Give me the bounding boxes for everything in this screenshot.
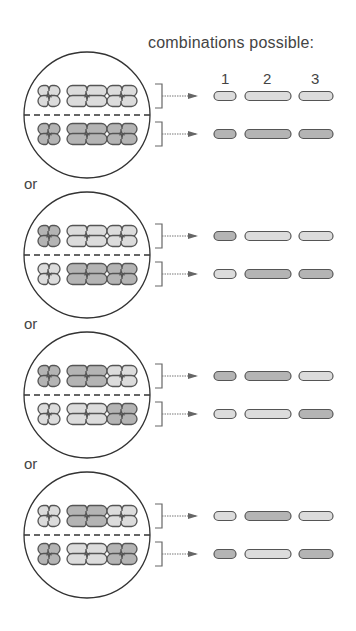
chromosome-1-bottom <box>38 124 60 145</box>
chromosome-1-top <box>38 506 60 527</box>
chromosome-2-bottom <box>67 544 107 565</box>
chromosome-2-bottom <box>67 264 107 285</box>
result-chromosome-3-top <box>299 92 333 101</box>
meiosis-combinations-diagram: 1 2 3 1 2 3 <box>0 0 356 631</box>
bracket <box>155 84 162 108</box>
result-chromosome-1-top <box>214 512 236 521</box>
bracket <box>155 542 162 566</box>
result-chromosome-1-top <box>214 372 236 381</box>
bracket <box>155 402 162 426</box>
result-chromosome-2-top <box>245 92 291 101</box>
result-chromosome-1-bottom <box>214 130 236 139</box>
bracket <box>155 364 162 388</box>
result-chromosome-1-bottom <box>214 550 236 559</box>
chromosome-2-bottom <box>67 124 107 145</box>
chromosome-2-top <box>67 226 107 247</box>
chromosome-1-bottom <box>38 404 60 425</box>
chromosome-3-top <box>107 226 137 247</box>
result-chromosome-1-top <box>214 232 236 241</box>
chromosome-1-top <box>38 226 60 247</box>
chromosome-3-bottom <box>107 264 137 285</box>
chromosome-1-bottom <box>38 264 60 285</box>
result-chromosome-2-bottom <box>245 410 291 419</box>
combination-group-3 <box>24 332 333 458</box>
chromosome-1-top <box>38 86 60 107</box>
result-label-3: 3 <box>311 70 319 87</box>
combination-group-2 <box>24 192 333 318</box>
result-chromosome-3-top <box>299 232 333 241</box>
bracket <box>155 224 162 248</box>
chromosome-2-bottom <box>67 404 107 425</box>
result-chromosome-2-top <box>245 372 291 381</box>
combination-group-4 <box>24 472 333 598</box>
chromosome-2-top <box>67 506 107 527</box>
combination-group-1 <box>24 52 333 178</box>
chromosome-3-bottom <box>107 404 137 425</box>
result-chromosome-2-bottom <box>245 550 291 559</box>
chromosome-3-top <box>107 86 137 107</box>
result-chromosome-1-bottom <box>214 410 236 419</box>
result-chromosome-1-bottom <box>214 270 236 279</box>
result-chromosome-2-bottom <box>245 270 291 279</box>
result-chromosome-3-top <box>299 512 333 521</box>
chromosome-1-bottom <box>38 544 60 565</box>
result-chromosome-3-bottom <box>299 270 333 279</box>
chromosome-2-top <box>67 86 107 107</box>
bracket <box>155 122 162 146</box>
result-chromosome-1-top <box>214 92 236 101</box>
result-chromosome-3-top <box>299 372 333 381</box>
chromosome-3-top <box>107 506 137 527</box>
bracket <box>155 262 162 286</box>
result-chromosome-3-bottom <box>299 130 333 139</box>
chromosome-3-top <box>107 366 137 387</box>
result-chromosome-2-bottom <box>245 130 291 139</box>
chromosome-3-bottom <box>107 544 137 565</box>
bracket <box>155 504 162 528</box>
chromosome-3-bottom <box>107 124 137 145</box>
result-label-1: 1 <box>221 70 229 87</box>
result-chromosome-2-top <box>245 232 291 241</box>
result-label-2: 2 <box>263 70 271 87</box>
result-chromosome-2-top <box>245 512 291 521</box>
result-chromosome-3-bottom <box>299 410 333 419</box>
chromosome-1-top <box>38 366 60 387</box>
chromosome-2-top <box>67 366 107 387</box>
result-chromosome-3-bottom <box>299 550 333 559</box>
